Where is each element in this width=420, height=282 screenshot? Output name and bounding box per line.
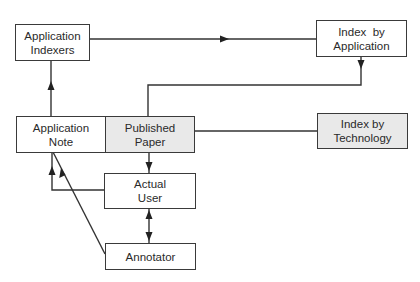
node-application-note: Application Note: [16, 116, 106, 153]
arrowhead-up-icon: [146, 210, 153, 219]
arrowhead-down-icon: [146, 162, 153, 171]
node-label: Published: [125, 121, 176, 135]
node-label: Actual: [134, 177, 166, 191]
arrowhead-down-icon: [146, 232, 153, 241]
edge-annotator-to-note: [53, 152, 105, 254]
node-label: Application: [33, 121, 89, 135]
edge-actual-user-to-note: [52, 152, 104, 190]
node-label: Application: [333, 39, 389, 53]
node-application-indexers: Application Indexers: [15, 24, 90, 61]
arrowhead-up-icon: [49, 166, 56, 175]
node-label: Annotator: [126, 250, 176, 264]
node-annotator: Annotator: [105, 243, 196, 270]
arrowhead-down-icon: [358, 60, 365, 69]
node-label: Indexers: [30, 43, 74, 57]
node-index-by-technology: Index by Technology: [317, 113, 408, 149]
node-actual-user: Actual User: [104, 173, 196, 209]
node-label: User: [138, 191, 162, 205]
edge-index-by-application-to-published-paper: [148, 56, 361, 116]
node-label: Technology: [333, 131, 391, 145]
node-label: Paper: [135, 135, 166, 149]
node-published-paper: Published Paper: [105, 116, 195, 153]
arrowhead-up-icon: [48, 81, 55, 90]
node-label: Application: [24, 29, 80, 43]
node-label: Index by: [338, 25, 385, 39]
arrowhead-right-icon: [220, 36, 229, 43]
node-label: Index by: [341, 117, 384, 131]
node-label: Note: [49, 135, 73, 149]
node-index-by-application: Index by Application: [316, 20, 407, 57]
